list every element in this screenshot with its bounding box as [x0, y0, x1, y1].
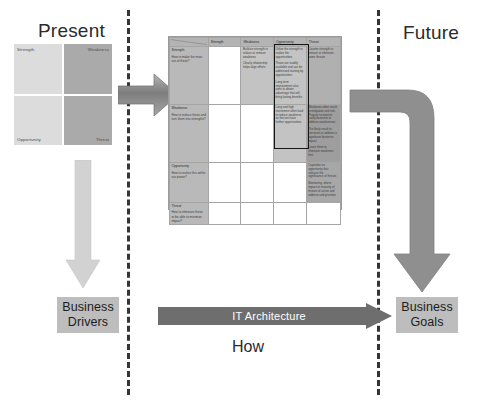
present-label: Present: [38, 20, 105, 42]
matrix-col-strength: Strength: [208, 38, 241, 47]
matrix-cell: [241, 202, 274, 225]
matrix-rowhead-question: How to reduce these and turn them into s…: [172, 113, 207, 121]
matrix-cell: [241, 104, 274, 162]
matrix-cell: Long and high investment often lead to r…: [274, 104, 307, 162]
business-drivers-line1: Business: [62, 300, 114, 315]
swot-quadrant-threat-label: Threat: [96, 137, 109, 142]
swot-quadrant-opportunity-label: Opportunity: [17, 137, 41, 142]
matrix-rowhead-question: How to make the most out of these?: [172, 55, 207, 63]
business-goals-line1: Business: [401, 300, 453, 315]
business-drivers-box: Business Drivers: [57, 297, 119, 333]
business-goals-line2: Goals: [410, 315, 443, 330]
matrix-cell: [208, 47, 241, 105]
how-label: How: [232, 338, 264, 356]
swot-quadrant-opportunity: Opportunity: [14, 96, 62, 146]
matrix-cell: [208, 104, 241, 162]
arrow-to-business-drivers: [66, 160, 100, 288]
diagonal-slash-icon: [170, 38, 208, 46]
matrix-cell: [208, 202, 241, 225]
matrix-cell-note: Utilize the strength to realize the oppo…: [276, 48, 305, 59]
matrix-row: Strength How to make the most out of the…: [170, 47, 341, 105]
matrix-corner-cell: [170, 38, 209, 47]
matrix-row: Threat How to eliminate these or be able…: [170, 202, 341, 225]
matrix-cell: Build on strength to reduce or remove we…: [241, 47, 274, 105]
matrix-cell: [274, 202, 307, 225]
divider-present: [127, 10, 130, 395]
diagram-canvas: Present Future Strength Weakness Opportu…: [0, 0, 477, 405]
matrix-cell: Utilize the strength to realize the oppo…: [274, 47, 307, 105]
matrix-rowhead-title: Threat: [172, 204, 207, 208]
arrow-matrix-to-business-goals: [330, 78, 460, 296]
matrix-cell-note: Build on strength to reduce or remove we…: [243, 48, 272, 59]
matrix-col-weakness: Weakness: [241, 38, 274, 47]
matrix-cell-note: Long term improvement also aims to obtai…: [276, 81, 305, 100]
matrix-rowhead-title: Opportunity: [172, 164, 207, 168]
business-drivers-line2: Drivers: [68, 315, 108, 330]
future-label: Future: [403, 22, 459, 44]
it-architecture-arrow: [158, 303, 392, 329]
swot-quadrant-weakness: Weakness: [64, 44, 112, 94]
matrix-cell: [274, 162, 307, 202]
matrix-rowhead-question: How to realize this within our power?: [172, 171, 207, 179]
matrix-cell: [241, 162, 274, 202]
matrix-rowhead-strength: Strength How to make the most out of the…: [170, 47, 209, 105]
matrix-rowhead-title: Strength: [172, 48, 207, 52]
matrix-rowhead-threat: Threat How to eliminate these or be able…: [170, 202, 209, 225]
swot-quadrant-weakness-label: Weakness: [88, 47, 109, 52]
swot-quadrant-strength-label: Strength: [17, 47, 34, 52]
swot-quadrant-strength: Strength: [14, 44, 62, 94]
matrix-row: Weakness How to reduce these and turn th…: [170, 104, 341, 162]
matrix-row: Opportunity How to realize this within o…: [170, 162, 341, 202]
matrix-col-opportunity: Opportunity: [274, 38, 307, 47]
matrix-cell: [208, 162, 241, 202]
matrix-header-row: Strength Weakness Opportunity Threat: [170, 38, 341, 47]
matrix-col-threat: Threat: [306, 38, 340, 47]
matrix-cell-note: Clearly relationship helps align efforts: [243, 62, 272, 70]
swot-matrix-table: Strength Weakness Opportunity Threat Str…: [169, 37, 341, 225]
matrix-cell-note: Those are readily available and can be a…: [276, 62, 305, 77]
swot-quadrant-threat: Threat: [64, 96, 112, 146]
swot-quadrant-chart: Strength Weakness Opportunity Threat: [14, 44, 112, 145]
matrix-cell-note: Long and high investment often lead to r…: [276, 106, 305, 125]
matrix-rowhead-weakness: Weakness How to reduce these and turn th…: [170, 104, 209, 162]
matrix-cell-note: Counter strength to remove or eliminate …: [308, 48, 338, 59]
swot-cross-matrix: Strength Weakness Opportunity Threat Str…: [168, 36, 342, 210]
business-goals-box: Business Goals: [396, 297, 458, 333]
matrix-rowhead-opportunity: Opportunity How to realize this within o…: [170, 162, 209, 202]
matrix-rowhead-question: How to eliminate these or be able to min…: [172, 210, 207, 223]
matrix-rowhead-title: Weakness: [172, 106, 207, 110]
